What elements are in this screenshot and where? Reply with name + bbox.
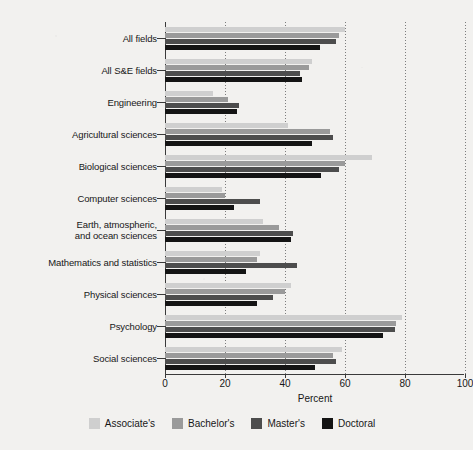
bar [165,59,312,64]
bar [165,283,291,288]
legend-label: Master's [267,418,304,429]
bar [165,301,257,306]
legend-label: Associate's [105,418,155,429]
bar [165,129,330,134]
legend-swatch-icon [251,418,262,429]
bar-group [165,59,465,82]
y-axis-tick [157,198,165,199]
y-axis-tick [157,102,165,103]
bar [165,155,372,160]
bar [165,289,285,294]
bar [165,365,315,370]
bar [165,269,246,274]
bar [165,219,263,224]
bar [165,123,288,128]
y-axis-tick [157,358,165,359]
bar [165,27,345,32]
bar [165,257,257,262]
legend-swatch-icon [322,418,333,429]
bar [165,65,309,70]
legend-item[interactable]: Doctoral [322,418,375,429]
bar [165,231,293,236]
gridline [465,22,466,374]
bar [165,161,345,166]
y-axis-category-label-line: Social sciences [5,353,157,364]
legend-swatch-icon [89,418,100,429]
x-axis-tick-label: 20 [219,378,230,389]
bar-group [165,219,465,242]
y-axis-category-label: Computer sciences [5,193,157,204]
y-axis-category-label: Social sciences [5,353,157,364]
legend-swatch-icon [172,418,183,429]
bar [165,187,222,192]
legend-item[interactable]: Associate's [89,418,155,429]
bar [165,167,339,172]
bar-group [165,155,465,178]
bar-group [165,315,465,338]
bar [165,333,383,338]
bar [165,199,260,204]
x-axis-tick-label: 80 [399,378,410,389]
y-axis-tick [157,38,165,39]
y-axis-category-label: Biological sciences [5,161,157,172]
y-axis-category-label: All fields [5,33,157,44]
bar [165,33,339,38]
y-axis-tick [157,166,165,167]
x-axis-tick-label: 40 [279,378,290,389]
y-axis-category-label: Agricultural sciences [5,129,157,140]
bar [165,77,302,82]
bar-group [165,187,465,210]
bar [165,135,333,140]
y-axis-tick [157,294,165,295]
y-axis-category-label-line: Earth, atmospheric, [5,219,157,230]
x-axis-tick-label: 100 [457,378,473,389]
legend-item[interactable]: Bachelor's [172,418,234,429]
x-axis-tick-label: 0 [162,378,168,389]
bar-group [165,251,465,274]
legend-label: Bachelor's [188,418,234,429]
y-axis-category-label-line: Psychology [5,321,157,332]
y-axis-tick [157,230,165,231]
y-axis-category-label-line: Engineering [5,97,157,108]
bar [165,193,225,198]
bar [165,109,237,114]
y-axis-tick [157,326,165,327]
y-axis-category-label-line: Agricultural sciences [5,129,157,140]
y-axis-category-label: Mathematics and statistics [5,257,157,268]
legend-item[interactable]: Master's [251,418,304,429]
y-axis-category-label-line: All S&E fields [5,65,157,76]
bar-group [165,347,465,370]
bar [165,327,395,332]
bar [165,251,260,256]
bar [165,103,239,108]
bar [165,71,300,76]
bar [165,91,213,96]
bar [165,315,402,320]
bar [165,225,279,230]
y-axis-category-label: Psychology [5,321,157,332]
y-axis-category-label-line: All fields [5,33,157,44]
y-axis-category-label: All S&E fields [5,65,157,76]
x-axis-tick-label: 60 [339,378,350,389]
y-axis-tick [157,70,165,71]
bar [165,173,321,178]
bar [165,141,312,146]
bar [165,359,336,364]
bar [165,39,336,44]
y-axis-category-label-line: Computer sciences [5,193,157,204]
bar-group [165,283,465,306]
bar [165,45,320,50]
y-axis-category-label-line: Mathematics and statistics [5,257,157,268]
bar-group [165,27,465,50]
y-axis-category-label-line: and ocean sciences [5,230,157,241]
y-axis-tick [157,262,165,263]
bar [165,321,396,326]
bar-group [165,123,465,146]
y-axis-category-label-line: Physical sciences [5,289,157,300]
y-axis-category-label: Engineering [5,97,157,108]
x-axis-line [165,374,464,375]
bar [165,347,342,352]
bar [165,263,297,268]
y-axis-category-label: Earth, atmospheric,and ocean sciences [5,219,157,241]
